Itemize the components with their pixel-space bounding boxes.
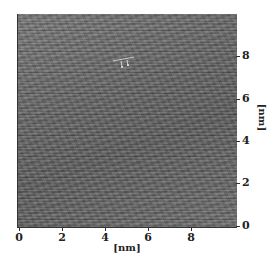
y-tick-4 [236, 141, 240, 142]
y-tick-label: 8 [242, 49, 250, 62]
y-tick-0 [236, 226, 240, 227]
y-tick-label: 4 [242, 134, 250, 147]
x-tick-label: 8 [181, 231, 201, 244]
y-axis-title: [nm] [257, 103, 268, 133]
x-tick-label: 0 [9, 231, 29, 244]
y-tick-2 [236, 183, 240, 184]
y-tick-6 [236, 99, 240, 100]
y-tick-label: 0 [242, 219, 250, 232]
x-axis-title: [nm] [107, 242, 147, 253]
y-tick-8 [236, 56, 240, 57]
y-tick-label: 2 [242, 176, 250, 189]
y-tick-label: 6 [242, 92, 250, 105]
x-tick-label: 2 [52, 231, 72, 244]
microscopy-image [17, 14, 237, 228]
annotation-marker-icon [113, 56, 135, 70]
